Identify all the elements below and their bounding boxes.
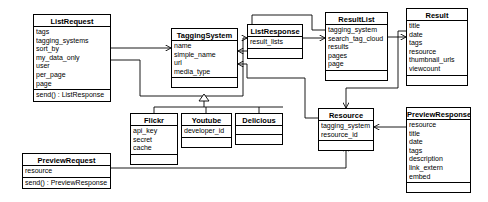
method-item: send() : ListResponse <box>36 91 110 100</box>
attribute-item: simple_name <box>174 51 237 60</box>
method-item: send() : PreviewResponse <box>25 179 110 188</box>
attribute-item: developer_id <box>184 127 231 136</box>
attribute-item: resource <box>409 121 470 130</box>
attribute-item: cache <box>133 144 177 153</box>
attribute-item: description <box>409 155 470 164</box>
class-box-tagging-system[interactable]: TaggingSystem name simple_name url media… <box>171 28 238 88</box>
attributes-compartment-delicious <box>236 126 282 135</box>
class-name-list-request: ListRequest <box>34 15 110 27</box>
methods-compartment-preview-response <box>407 183 470 192</box>
attribute-item: name <box>174 42 237 51</box>
edge-generalization-taggingsystem <box>154 94 283 113</box>
attribute-item: resource_id <box>321 131 373 140</box>
attribute-item: api_key <box>133 127 177 136</box>
uml-diagram-canvas: ListRequest tags tagging_systems sort_by… <box>0 0 488 202</box>
attribute-item: result_lists <box>250 38 302 47</box>
attributes-compartment-youtube: developer_id <box>182 126 231 138</box>
class-name-youtube: Youtube <box>182 114 231 126</box>
methods-compartment-youtube <box>182 138 231 147</box>
methods-compartment-resource <box>319 141 373 150</box>
class-box-result[interactable]: Result title date tags resource thumbnai… <box>406 8 468 86</box>
attribute-item: tagging_systems <box>36 37 110 46</box>
generalization-triangle <box>199 94 209 101</box>
attribute-item: pages <box>328 52 387 61</box>
class-name-flickr: Flickr <box>131 114 177 126</box>
class-name-tagging-system: TaggingSystem <box>172 29 237 41</box>
attribute-item: title <box>409 22 467 31</box>
attribute-item: my_data_only <box>36 54 110 63</box>
attributes-compartment-flickr: api_key secret cache <box>131 126 177 155</box>
class-name-list-response: ListResponse <box>248 25 302 37</box>
attribute-item: title <box>409 130 470 139</box>
attribute-item: secret <box>133 136 177 145</box>
attribute-item: embed <box>409 173 470 182</box>
attributes-compartment-list-request: tags tagging_systems sort_by my_data_onl… <box>34 27 110 90</box>
attribute-item: media_type <box>174 68 237 77</box>
class-name-resource: Resource <box>319 109 373 121</box>
attribute-item: user <box>36 62 110 71</box>
attribute-item: viewcount <box>409 65 467 74</box>
attributes-compartment-result-list: tagging_system search_tag_cloud results … <box>326 25 387 71</box>
class-box-result-list[interactable]: ResultList tagging_system search_tag_clo… <box>325 12 388 81</box>
methods-compartment-delicious <box>236 135 282 144</box>
attribute-item: date <box>409 31 467 40</box>
attribute-item: url <box>174 59 237 68</box>
attributes-compartment-tagging-system: name simple_name url media_type <box>172 41 237 78</box>
attribute-item: date <box>409 138 470 147</box>
attribute-item: tags <box>409 39 467 48</box>
attribute-item: link_extern <box>409 164 470 173</box>
class-name-preview-request: PreviewRequest <box>23 154 110 166</box>
attribute-item: thumbnail_urls <box>409 56 467 65</box>
class-box-list-response[interactable]: ListResponse result_lists <box>247 24 303 59</box>
attributes-compartment-preview-response: resource title date tags description lin… <box>407 120 470 183</box>
attribute-item: per_page <box>36 71 110 80</box>
attribute-item: page <box>328 60 387 69</box>
attribute-item: tagging_system <box>328 26 387 35</box>
attributes-compartment-preview-request: resource <box>23 166 110 178</box>
attribute-item: resource <box>409 48 467 57</box>
class-box-resource[interactable]: Resource tagging_system resource_id <box>318 108 374 151</box>
attributes-compartment-list-response: result_lists <box>248 37 302 49</box>
class-box-flickr[interactable]: Flickr api_key secret cache <box>130 113 178 165</box>
edge-resource-to-taggingsystem <box>238 64 318 118</box>
class-name-result-list: ResultList <box>326 13 387 25</box>
attribute-item: resource <box>25 167 110 176</box>
class-box-list-request[interactable]: ListRequest tags tagging_systems sort_by… <box>33 14 111 102</box>
attributes-compartment-resource: tagging_system resource_id <box>319 121 373 141</box>
attribute-item: tags <box>409 147 470 156</box>
methods-compartment-list-request: send() : ListResponse <box>34 90 110 101</box>
class-name-result: Result <box>407 9 467 21</box>
class-box-preview-response[interactable]: PreviewResponse resource title date tags… <box>406 107 471 193</box>
methods-compartment-tagging-system <box>172 78 237 87</box>
methods-compartment-flickr <box>131 155 177 164</box>
attribute-item: tagging_system <box>321 122 373 131</box>
methods-compartment-preview-request: send() : PreviewResponse <box>23 178 110 189</box>
class-name-preview-response: PreviewResponse <box>407 108 470 120</box>
class-name-delicious: Delicious <box>236 114 282 126</box>
methods-compartment-result-list <box>326 71 387 80</box>
attribute-item: sort_by <box>36 45 110 54</box>
attributes-compartment-result: title date tags resource thumbnail_urls … <box>407 21 467 76</box>
methods-compartment-list-response <box>248 49 302 58</box>
methods-compartment-result <box>407 76 467 85</box>
attribute-item: results <box>328 43 387 52</box>
attribute-item: search_tag_cloud <box>328 35 387 44</box>
attribute-item: tags <box>36 28 110 37</box>
attribute-item: page <box>36 80 110 89</box>
class-box-youtube[interactable]: Youtube developer_id <box>181 113 232 148</box>
class-box-delicious[interactable]: Delicious <box>235 113 283 145</box>
class-box-preview-request[interactable]: PreviewRequest resource send() : Preview… <box>22 153 111 189</box>
